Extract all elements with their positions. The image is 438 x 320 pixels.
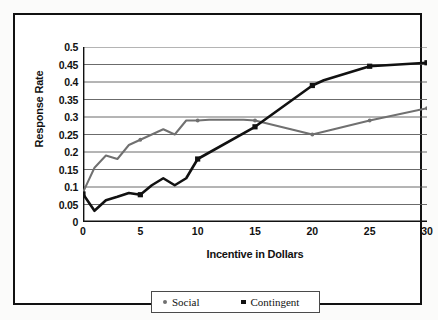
data-point-marker — [367, 64, 372, 69]
chart-page: Response Rate 00.050.10.150.20.250.30.35… — [0, 0, 438, 320]
y-tick-label: 0.25 — [59, 129, 78, 141]
y-axis-title: Response Rate — [33, 54, 45, 164]
x-tick-label: 0 — [80, 225, 86, 237]
x-tick-label: 30 — [421, 225, 433, 237]
data-point-marker — [196, 119, 200, 123]
y-tick-label: 0.15 — [59, 164, 78, 176]
y-tick-label: 0.45 — [59, 59, 78, 71]
series-line-contingent — [83, 63, 427, 211]
y-tick-label: 0.1 — [64, 181, 78, 193]
data-point-marker — [310, 83, 315, 88]
y-tick-label: 0.05 — [59, 199, 78, 211]
data-point-marker — [252, 124, 257, 129]
data-point-marker — [138, 138, 142, 142]
x-tick-label: 15 — [249, 225, 261, 237]
x-tick-label: 20 — [306, 225, 318, 237]
data-point-marker — [310, 133, 314, 137]
data-point-marker — [138, 192, 143, 197]
legend-square-marker-icon — [241, 300, 246, 305]
plot-area — [83, 47, 427, 222]
data-point-marker — [253, 119, 257, 123]
x-axis-tick-labels: 051015202530 — [83, 225, 427, 241]
x-tick-label: 25 — [364, 225, 376, 237]
legend-dot-marker-icon — [163, 300, 167, 304]
x-tick-label: 5 — [137, 225, 143, 237]
data-point-marker — [195, 156, 200, 161]
x-axis-title: Incentive in Dollars — [83, 248, 427, 260]
y-tick-label: 0.2 — [64, 146, 78, 158]
y-tick-label: 0 — [72, 216, 78, 228]
y-tick-label: 0.4 — [64, 76, 78, 88]
data-point-marker — [424, 60, 427, 65]
y-axis-tick-labels: 00.050.10.150.20.250.30.350.40.450.5 — [45, 47, 78, 222]
x-tick-label: 10 — [192, 225, 204, 237]
y-tick-label: 0.3 — [64, 111, 78, 123]
y-tick-label: 0.5 — [64, 41, 78, 53]
legend-item-contingent: Contingent — [241, 296, 299, 308]
data-point-marker — [368, 119, 372, 123]
legend-label-contingent: Contingent — [251, 296, 300, 308]
legend-item-social: Social — [163, 296, 200, 308]
chart-legend: Social Contingent — [151, 291, 320, 313]
legend-label-social: Social — [172, 296, 200, 308]
chart-svg — [83, 47, 427, 222]
chart-frame: Response Rate 00.050.10.150.20.250.30.35… — [13, 13, 422, 305]
y-tick-label: 0.35 — [59, 94, 78, 106]
data-point-marker — [83, 191, 86, 196]
